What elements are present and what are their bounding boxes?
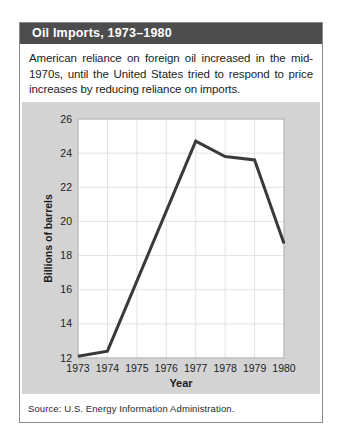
x-axis-title: Year: [169, 377, 193, 389]
x-tick-label: 1977: [184, 362, 208, 374]
x-tick-label: 1975: [125, 362, 149, 374]
figure-card: Oil Imports, 1973–1980 American reliance…: [19, 22, 323, 423]
y-tick-label: 14: [60, 317, 72, 329]
x-tick-label: 1973: [66, 362, 90, 374]
source-row: Source: U.S. Energy Information Administ…: [20, 394, 322, 422]
y-tick-label: 20: [60, 215, 72, 227]
figure-description: American reliance on foreign oil increas…: [20, 44, 322, 102]
y-tick-label: 18: [60, 249, 72, 261]
x-tick-label: 1974: [96, 362, 120, 374]
x-tick-label: 1979: [243, 362, 267, 374]
x-tick-label: 1978: [213, 362, 237, 374]
y-tick-label: 24: [60, 147, 72, 159]
chart-panel: 1214161820222426197319741975197619771978…: [22, 102, 320, 394]
y-tick-label: 26: [60, 113, 72, 125]
y-tick-label: 22: [60, 181, 72, 193]
y-tick-label: 16: [60, 283, 72, 295]
title-bar: Oil Imports, 1973–1980: [20, 23, 322, 44]
plot-area: [78, 119, 284, 358]
figure-title: Oil Imports, 1973–1980: [32, 26, 172, 40]
line-chart-svg: 1214161820222426197319741975197619771978…: [22, 102, 320, 394]
y-axis-title: Billions of barrels: [42, 194, 54, 283]
source-text: Source: U.S. Energy Information Administ…: [28, 403, 234, 414]
x-tick-label: 1976: [155, 362, 179, 374]
x-tick-label: 1980: [272, 362, 296, 374]
